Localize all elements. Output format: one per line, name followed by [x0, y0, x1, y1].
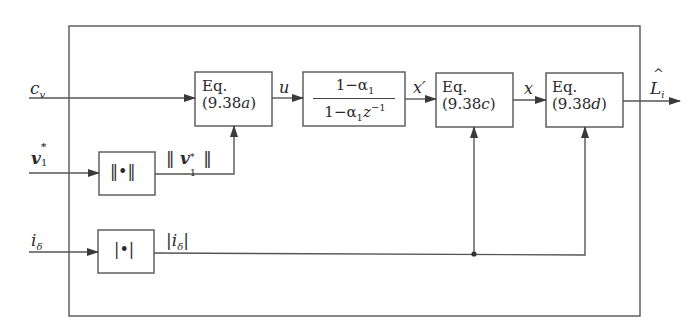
filter-denominator: 1−α1z−1	[310, 102, 400, 123]
filter-numerator: 1−α1	[310, 76, 400, 96]
signal-abs-out-label: |iδ|	[166, 232, 189, 252]
abs-block-label: |•|	[114, 242, 134, 258]
wire-abs-out	[154, 127, 585, 255]
junction-dot	[471, 251, 476, 256]
fraction-bar	[313, 98, 395, 99]
eq-d-text: Eq. (9.38d)	[552, 79, 607, 113]
norm-block-label: ‖•‖	[110, 164, 135, 180]
signal-norm-out-label: ‖ v*1 ‖	[166, 150, 212, 167]
signal-x-prime-label: x′	[413, 80, 426, 96]
eq-c-text: Eq. (9.38c)	[442, 79, 496, 113]
label-cv: cv	[30, 80, 45, 100]
signal-x-label: x	[524, 81, 533, 97]
diagram-canvas	[0, 0, 699, 335]
signal-u-label: u	[279, 80, 289, 96]
output-L-hat-label: ^Li	[650, 80, 665, 100]
label-i-delta: iδ	[31, 232, 42, 252]
eq-a-text: Eq. (9.38a)	[202, 78, 256, 112]
label-v1-star: v*1	[31, 150, 41, 167]
